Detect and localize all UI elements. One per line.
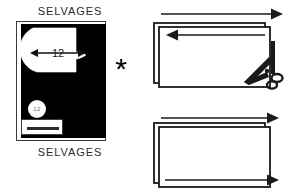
- result-top-edge-arrow-icon: [161, 113, 279, 124]
- dimension-value-label: 12: [30, 44, 86, 62]
- fabric-tag-bar: [27, 127, 59, 130]
- figure-canvas: SELVAGES 12 12 SELVAGES *: [0, 0, 291, 195]
- step-cut-result: [145, 96, 291, 193]
- step-fold-and-cut: [145, 0, 291, 97]
- pattern-piece-number-marker: 12: [28, 100, 46, 118]
- fabric-layout-panel: SELVAGES 12 12 SELVAGES: [0, 0, 140, 195]
- selvage-label-top: SELVAGES: [0, 5, 140, 17]
- selvage-label-bottom: SELVAGES: [0, 146, 140, 158]
- asterisk-separator-icon: *: [106, 52, 136, 86]
- fabric-tag: [21, 119, 63, 135]
- top-edge-arrow-icon: [161, 9, 283, 20]
- dimension-12: 12: [30, 44, 86, 62]
- result-front-layer: [159, 127, 270, 187]
